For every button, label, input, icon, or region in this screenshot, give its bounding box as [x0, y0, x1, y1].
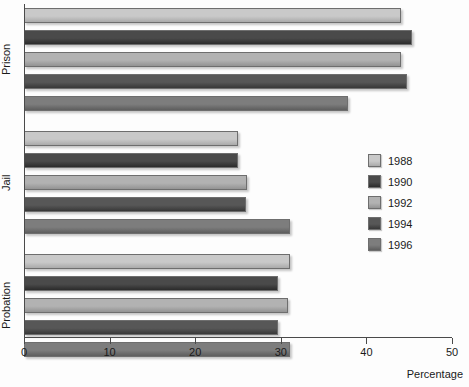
- x-axis-line: [24, 337, 452, 338]
- x-axis-tick-label: 0: [21, 346, 27, 358]
- x-axis-tick: [281, 338, 282, 344]
- legend-label: 1992: [388, 197, 412, 209]
- legend-label: 1988: [388, 155, 412, 167]
- x-axis-tick: [195, 338, 196, 344]
- x-axis-title: Percentage: [407, 368, 463, 380]
- legend-item-1994[interactable]: 1994: [368, 215, 412, 232]
- legend-swatch-1988: [368, 154, 381, 167]
- x-axis-tick-label: 40: [360, 346, 372, 358]
- x-axis-tick-label: 20: [189, 346, 201, 358]
- bar-chart: PrisonJailProbation 01020304050 Percenta…: [0, 0, 469, 387]
- x-axis-tick-label: 30: [275, 346, 287, 358]
- bar-jail-1990: [24, 153, 238, 168]
- bar-probation-1988: [24, 254, 290, 269]
- legend-item-1996[interactable]: 1996: [368, 236, 412, 253]
- x-axis-tick: [452, 338, 453, 344]
- legend-swatch-1996: [368, 238, 381, 251]
- y-axis-line: [24, 4, 25, 338]
- x-axis-tick: [366, 338, 367, 344]
- legend-item-1988[interactable]: 1988: [368, 152, 412, 169]
- bar-probation-1992: [24, 298, 288, 313]
- bar-prison-1988: [24, 8, 401, 23]
- bar-prison-1992: [24, 52, 401, 67]
- category-label-prison: Prison: [0, 8, 22, 111]
- bar-prison-1994: [24, 74, 407, 89]
- bar-probation-1990: [24, 276, 278, 291]
- legend-swatch-1990: [368, 175, 381, 188]
- bar-jail-1996: [24, 219, 290, 234]
- legend-swatch-1994: [368, 217, 381, 230]
- legend-label: 1996: [388, 239, 412, 251]
- category-label-jail: Jail: [0, 131, 22, 234]
- x-axis-tick: [110, 338, 111, 344]
- legend-label: 1994: [388, 218, 412, 230]
- category-label-probation: Probation: [0, 254, 22, 357]
- x-axis-tick-label: 10: [103, 346, 115, 358]
- x-axis-tick: [24, 338, 25, 344]
- bar-prison-1996: [24, 96, 348, 111]
- bar-jail-1992: [24, 175, 247, 190]
- legend-label: 1990: [388, 176, 412, 188]
- bar-prison-1990: [24, 30, 412, 45]
- legend-item-1990[interactable]: 1990: [368, 173, 412, 190]
- bar-jail-1988: [24, 131, 238, 146]
- x-axis-tick-label: 50: [446, 346, 458, 358]
- bar-probation-1994: [24, 320, 278, 335]
- legend-item-1992[interactable]: 1992: [368, 194, 412, 211]
- legend-swatch-1992: [368, 196, 381, 209]
- bar-probation-1996: [24, 342, 290, 357]
- bar-jail-1994: [24, 197, 246, 212]
- legend: 19881990199219941996: [368, 152, 412, 257]
